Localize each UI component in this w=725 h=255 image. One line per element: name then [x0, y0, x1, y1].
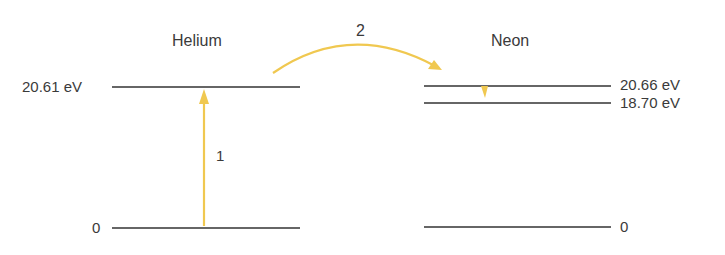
neon-level-label-0: 0: [620, 218, 628, 235]
transition-1-label: 1: [216, 147, 224, 164]
neon-relaxation-arrow-icon: [481, 86, 488, 98]
neon-title: Neon: [491, 32, 529, 50]
transition-2-label: 2: [356, 22, 365, 40]
transition-2-arrow: [273, 45, 442, 73]
neon-level-label-18-70: 18.70 eV: [620, 94, 680, 111]
helium-level-label-0: 0: [92, 219, 100, 236]
helium-level-label-20-61: 20.61 eV: [22, 78, 82, 95]
neon-level-label-20-66: 20.66 eV: [620, 76, 680, 93]
transition-1-arrow: [199, 89, 209, 226]
helium-title: Helium: [172, 32, 222, 50]
